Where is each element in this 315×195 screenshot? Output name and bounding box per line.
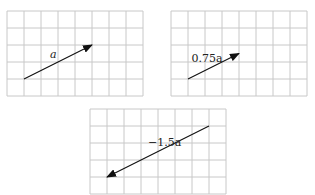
vector-label-panel-neg15a: −1.5a (148, 136, 182, 149)
grid-panel-0.75a: 0.75a (171, 11, 307, 96)
grid-panel-minus-1.5a: −1.5a (90, 109, 226, 194)
grid-panel-a: a (7, 11, 143, 96)
vector-label-panel-a: a (50, 48, 57, 61)
diagram-canvas: a 0.75a −1.5a (0, 0, 315, 195)
vector-label-panel-075a: 0.75a (192, 52, 223, 65)
